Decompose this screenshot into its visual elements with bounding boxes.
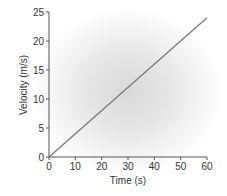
x-tick-label: 60 <box>201 161 213 172</box>
x-tick-label: 0 <box>46 161 52 172</box>
y-tick-label: 15 <box>33 65 45 76</box>
x-tick-labels: 0 10 20 30 40 50 60 <box>46 161 213 172</box>
x-axis-title: Time (s) <box>110 175 146 186</box>
y-tick-label: 25 <box>33 7 45 18</box>
y-tick-label: 5 <box>38 123 44 134</box>
y-tick-label: 10 <box>33 94 45 105</box>
x-tick-label: 10 <box>70 161 82 172</box>
x-tick-label: 30 <box>122 161 134 172</box>
y-tick-label: 20 <box>33 36 45 47</box>
y-axis-title: Velocity (m/s) <box>18 55 29 115</box>
x-tick-label: 50 <box>175 161 187 172</box>
y-tick-label: 0 <box>38 152 44 163</box>
velocity-series-line <box>49 18 207 157</box>
x-tick-label: 40 <box>149 161 161 172</box>
x-tick-label: 20 <box>96 161 108 172</box>
y-tick-labels: 0 5 10 15 20 25 <box>33 7 45 163</box>
velocity-time-chart: 0 5 10 15 20 25 0 10 20 30 40 50 60 Time… <box>0 0 227 196</box>
